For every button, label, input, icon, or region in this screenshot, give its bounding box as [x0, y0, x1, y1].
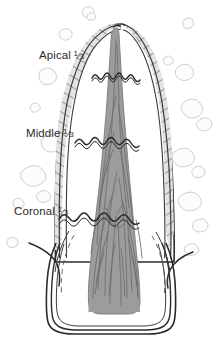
label-apical-third: Apical 1⁄3	[39, 50, 84, 62]
label-apical-fraction: 1⁄3	[71, 51, 84, 61]
label-coronal-name: Coronal	[14, 205, 55, 217]
label-coronal-fraction: 1⁄3	[55, 207, 68, 217]
label-middle-third: Middle 1⁄3	[26, 128, 74, 140]
tooth-root-thirds-diagram: Apical 1⁄3 Middle 1⁄3 Coronal 1⁄3	[0, 0, 217, 351]
label-coronal-third: Coronal 1⁄3	[14, 206, 68, 218]
label-middle-name: Middle	[26, 127, 60, 139]
tooth-diagram-svg	[0, 0, 217, 351]
label-apical-name: Apical	[39, 49, 71, 61]
label-middle-fraction: 1⁄3	[60, 129, 73, 139]
